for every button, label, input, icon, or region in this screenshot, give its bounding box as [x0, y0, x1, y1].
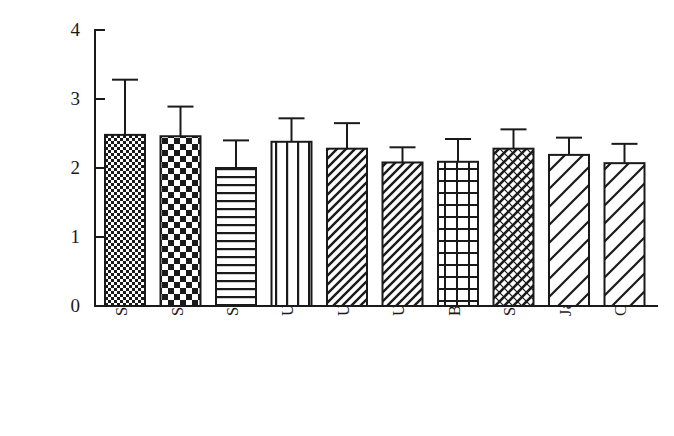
bar-series [105, 80, 645, 306]
bar [383, 162, 423, 306]
bar [549, 155, 589, 306]
bar [327, 149, 367, 306]
bar [105, 135, 145, 306]
bar [438, 162, 478, 306]
bar [494, 149, 534, 306]
bar [272, 142, 312, 306]
bar [216, 168, 256, 306]
plot-area [0, 0, 674, 436]
chart-figure: ABTS自由基清除能力/（μmolTE/g） 4 3 2 1 0 SS520 S… [0, 0, 674, 436]
bar [605, 163, 645, 306]
bar [161, 136, 201, 306]
